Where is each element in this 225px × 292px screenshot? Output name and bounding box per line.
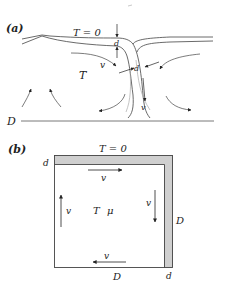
plume-edge-left [126,70,131,112]
return-flow-arrow-left [99,94,125,111]
panel-a: (a) T = 0 d v T d v [6,5,214,128]
depth-label-b: D [175,215,184,226]
convection-diagram: (a) T = 0 d v T d v [0,0,225,292]
right-boundary-layer [164,155,173,268]
downwelling-velocity-label: v [141,103,146,112]
right-surface-lower [137,41,213,52]
depth-label: D [6,115,16,128]
surface-temperature-label-b: T = 0 [99,143,127,154]
plume-thickness-arrow-right [145,62,159,67]
interior-temperature-label: T [79,69,88,82]
boundary-layer-inner-edge [55,165,165,268]
boundary-thickness-top: d [43,158,49,168]
right-surface-upper [133,37,213,44]
velocity-label: v [100,60,105,70]
return-flow-arrow-right [166,96,191,110]
left-velocity-label: v [66,206,71,216]
stray-mark [128,5,132,6]
panel-a-label: (a) [6,22,24,35]
boundary-thickness-bottom: d [166,271,172,281]
right-velocity-label: v [146,198,151,208]
upwelling-arrow-left [22,89,31,107]
thickness-label-top: d [114,39,119,48]
panel-b: (b) T = 0 d v v T μ v D v D d [8,143,184,282]
top-velocity-label: v [101,173,106,183]
flow-arrow-right-surface [160,54,200,69]
flow-arrow-toward-plume [71,53,116,66]
bottom-velocity-label: v [104,251,109,261]
upwelling-arrow-right [50,89,61,107]
plume-thickness-arrow-left [119,68,134,73]
panel-b-label: (b) [8,143,26,156]
boundary-layer-lower-edge [22,36,133,118]
interior-viscosity-label: μ [107,205,114,216]
interior-temperature-label-b: T [93,205,101,216]
surface-temperature-label: T = 0 [73,27,101,38]
thickness-label-plume: d [134,64,139,73]
top-boundary-layer [54,155,173,164]
width-label-b: D [112,271,121,282]
